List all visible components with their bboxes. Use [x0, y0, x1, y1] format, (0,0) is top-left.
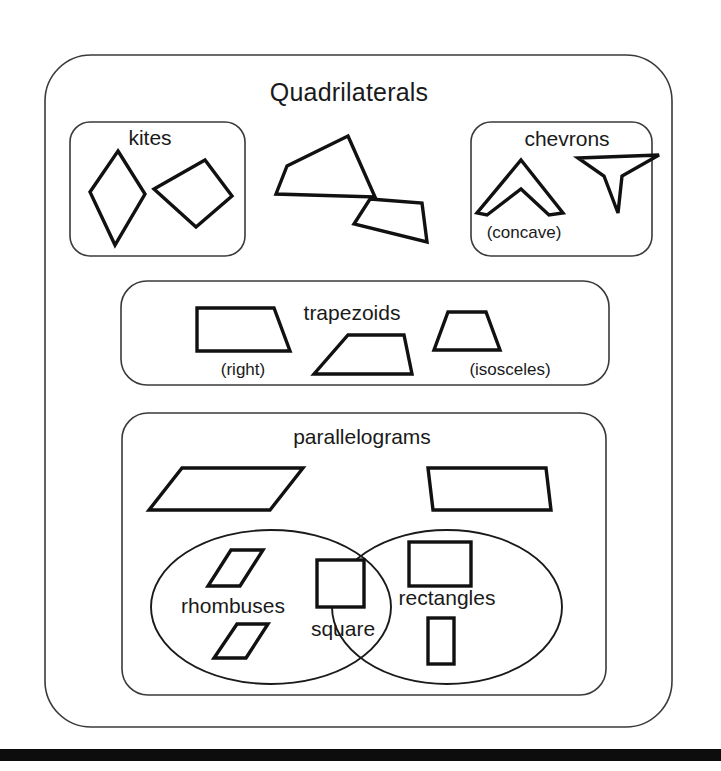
- right-trapezoid-shape: [197, 308, 290, 351]
- square-shape: [317, 560, 364, 607]
- rectangle-portrait-shape: [428, 618, 454, 664]
- diagram-canvas: Quadrilaterals kites chevrons (concave) …: [0, 0, 721, 771]
- parallelograms-label: parallelograms: [293, 425, 431, 448]
- chevrons-label: chevrons: [524, 127, 609, 150]
- parallelogram-wide-right-shape: [428, 468, 551, 510]
- venn-diagram: rhombuses rectangles square: [151, 530, 562, 684]
- chevron-down-left-arrow-shape: [578, 155, 659, 213]
- rhombuses-label: rhombuses: [181, 594, 285, 617]
- parallelogram-wide-left-shape: [149, 468, 303, 510]
- quadrilaterals-classification-diagram: Quadrilaterals kites chevrons (concave) …: [0, 0, 721, 771]
- kite-tall-dart-shape: [90, 151, 145, 245]
- loose-quad-lower-shape: [354, 199, 427, 242]
- isosceles-trapezoid-shape: [434, 312, 500, 350]
- trapezoids-label: trapezoids: [304, 301, 401, 324]
- chevrons-concave-note: (concave): [487, 223, 562, 242]
- page-bottom-bar: [0, 749, 721, 761]
- chevrons-group: chevrons (concave): [471, 122, 659, 256]
- kites-group: kites: [70, 122, 245, 256]
- rhombus-lower-shape: [214, 624, 268, 658]
- rectangle-landscape-shape: [409, 542, 471, 586]
- parallelograms-group: parallelograms rhombuses rectangles squa…: [122, 413, 606, 695]
- isosceles-trapezoid-note: (isosceles): [469, 360, 550, 379]
- trapezoids-group: trapezoids (right) (isosceles): [121, 281, 609, 385]
- kites-label: kites: [128, 126, 171, 149]
- loose-quadrilaterals-group: [276, 136, 427, 242]
- page-title: Quadrilaterals: [270, 78, 428, 106]
- rhombus-upper-shape: [208, 550, 263, 586]
- loose-quad-upper-shape: [276, 136, 375, 197]
- right-trapezoid-note: (right): [221, 360, 265, 379]
- chevron-up-arrow-shape: [477, 160, 563, 215]
- generic-trapezoid-shape: [314, 335, 412, 374]
- rectangles-label: rectangles: [399, 586, 496, 609]
- square-label: square: [311, 617, 375, 640]
- kite-tilted-shape: [154, 160, 232, 227]
